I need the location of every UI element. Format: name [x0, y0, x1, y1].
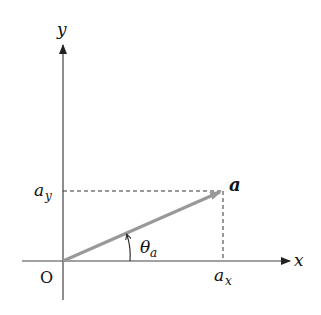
- ax-label: a x: [214, 265, 232, 288]
- svg-text:θ: θ: [140, 237, 150, 257]
- svg-text:a: a: [214, 265, 224, 285]
- theta-label: θ a: [140, 237, 157, 260]
- ay-label: a y: [34, 180, 52, 203]
- svg-text:a: a: [34, 180, 44, 200]
- svg-text:a: a: [150, 246, 157, 260]
- vector-components-diagram: y x O a a y a x θ a: [0, 0, 321, 315]
- angle-arc: [127, 235, 130, 261]
- x-axis-label: x: [294, 250, 304, 270]
- vector-label: a: [229, 174, 241, 195]
- y-axis-label: y: [56, 19, 67, 39]
- svg-text:x: x: [225, 274, 232, 288]
- svg-text:y: y: [44, 189, 52, 203]
- origin-label: O: [40, 268, 53, 287]
